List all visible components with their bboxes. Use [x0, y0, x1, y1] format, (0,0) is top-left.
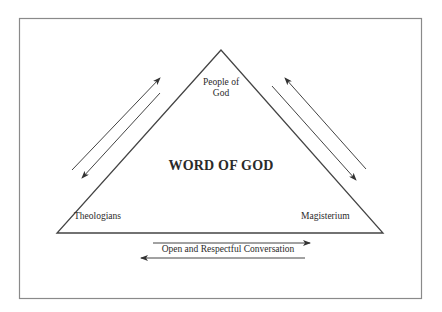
diagram-canvas — [0, 0, 442, 312]
base-label-conversation: Open and Respectful Conversation — [148, 244, 308, 254]
arrow-right-down-icon — [272, 86, 356, 180]
vertex-label-people-line2: God — [196, 88, 246, 99]
vertex-label-magisterium: Magisterium — [301, 211, 350, 221]
vertex-label-people-of-god: People of God — [196, 77, 246, 99]
center-label-word-of-god: WORD OF GOD — [160, 158, 282, 174]
arrow-right-up-icon — [285, 78, 366, 169]
vertex-label-theologians: Theologians — [74, 211, 121, 221]
arrow-left-down-icon — [82, 93, 160, 178]
vertex-label-people-line1: People of — [196, 77, 246, 88]
arrow-left-up-icon — [72, 78, 160, 170]
